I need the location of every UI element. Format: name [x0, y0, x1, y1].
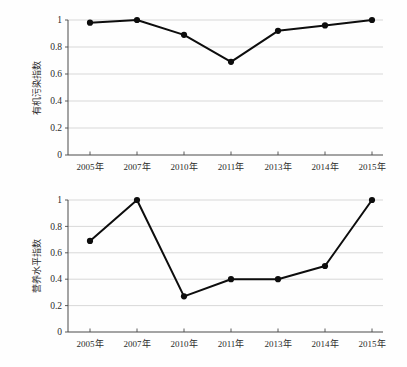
- chart-panel-organic-pollution-index: 00.20.40.60.81 2005年2007年2010年2011年2013年…: [0, 0, 407, 183]
- y-tick-label: 0: [57, 327, 62, 337]
- data-point-marker: [275, 276, 281, 282]
- axes-top: [68, 20, 383, 155]
- y-tick-label: 0.6: [50, 248, 62, 258]
- x-tick-label: 2010年: [171, 338, 198, 349]
- data-point-marker: [369, 17, 375, 23]
- figure-container: 00.20.40.60.81 2005年2007年2010年2011年2013年…: [0, 0, 407, 367]
- data-point-marker: [369, 197, 375, 203]
- data-point-marker: [275, 28, 281, 34]
- chart-svg-top: 00.20.40.60.81 2005年2007年2010年2011年2013年…: [0, 0, 407, 183]
- x-tick-label: 2015年: [359, 338, 386, 349]
- y-tick-label: 0.8: [50, 42, 62, 52]
- data-point-markers-bottom: [87, 197, 375, 300]
- x-tick-label: 2007年: [124, 161, 151, 172]
- data-point-marker: [322, 263, 328, 269]
- y-axis-title-bottom: 营养水平指数: [31, 239, 42, 293]
- x-tick-label: 2005年: [77, 161, 104, 172]
- x-tick-labels-top: 2005年2007年2010年2011年2013年2014年2015年: [77, 161, 386, 172]
- x-tick-label: 2011年: [218, 161, 245, 172]
- x-tick-label: 2014年: [312, 161, 339, 172]
- x-tick-label: 2010年: [171, 161, 198, 172]
- chart-panel-nutrient-level-index: 00.20.40.60.81 2005年2007年2010年2011年2013年…: [0, 184, 407, 367]
- y-tick-label: 0.6: [50, 69, 62, 79]
- data-point-marker: [87, 20, 93, 26]
- x-tick-marks-top: [90, 152, 372, 156]
- y-tick-label: 0.4: [50, 96, 62, 106]
- y-tick-label: 0.2: [50, 123, 62, 133]
- data-point-marker: [134, 17, 140, 23]
- y-tick-label: 1: [57, 15, 62, 25]
- y-tick-label: 1: [57, 195, 62, 205]
- y-tick-labels-bottom: 00.20.40.60.81: [50, 195, 62, 337]
- y-tick-label: 0.2: [50, 301, 62, 311]
- data-point-marker: [322, 22, 328, 28]
- chart-svg-bottom: 00.20.40.60.81 2005年2007年2010年2011年2013年…: [0, 184, 407, 367]
- x-tick-label: 2005年: [77, 338, 104, 349]
- y-tick-label: 0.4: [50, 274, 62, 284]
- y-tick-label: 0.8: [50, 222, 62, 232]
- x-tick-label: 2014年: [312, 338, 339, 349]
- data-point-marker: [228, 59, 234, 65]
- data-point-marker: [228, 276, 234, 282]
- x-tick-label: 2011年: [218, 338, 245, 349]
- x-tick-labels-bottom: 2005年2007年2010年2011年2013年2014年2015年: [77, 338, 386, 349]
- x-tick-label: 2015年: [359, 161, 386, 172]
- gridlines-bottom: [68, 200, 383, 306]
- gridlines-top: [68, 20, 383, 128]
- y-tick-label: 0: [57, 150, 62, 160]
- data-point-marker: [134, 197, 140, 203]
- y-axis-title-top: 有机污染指数: [31, 61, 42, 115]
- data-point-marker: [87, 238, 93, 244]
- data-point-marker: [181, 293, 187, 299]
- data-point-marker: [181, 32, 187, 38]
- x-tick-label: 2013年: [265, 161, 292, 172]
- x-tick-label: 2007年: [124, 338, 151, 349]
- x-tick-label: 2013年: [265, 338, 292, 349]
- data-series-line-top: [90, 20, 372, 62]
- y-tick-labels-top: 00.20.40.60.81: [50, 15, 62, 160]
- x-tick-marks-bottom: [90, 329, 372, 333]
